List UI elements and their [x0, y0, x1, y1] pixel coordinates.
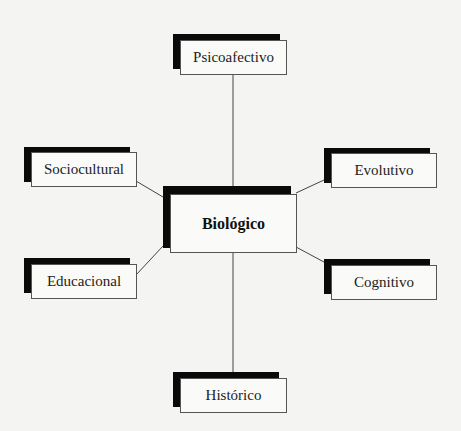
node-box: Cognitivo	[331, 265, 437, 300]
node-label: Psicoafectivo	[193, 49, 274, 66]
node-box: Biológico	[170, 194, 297, 253]
node-label: Educacional	[47, 273, 121, 290]
line-educacional	[136, 246, 163, 275]
node-label: Histórico	[206, 387, 262, 404]
node-box: Educacional	[31, 264, 137, 299]
node-box: Evolutivo	[331, 153, 437, 188]
line-sociocultural	[136, 181, 163, 197]
node-box: Histórico	[180, 378, 287, 413]
node-label: Evolutivo	[354, 162, 413, 179]
node-box: Psicoafectivo	[180, 40, 287, 75]
line-cognitivo	[296, 247, 324, 262]
node-label: Biológico	[202, 215, 265, 233]
line-evolutivo	[296, 180, 324, 193]
node-label: Cognitivo	[354, 274, 414, 291]
node-box: Sociocultural	[31, 152, 137, 187]
node-label: Sociocultural	[44, 161, 124, 178]
